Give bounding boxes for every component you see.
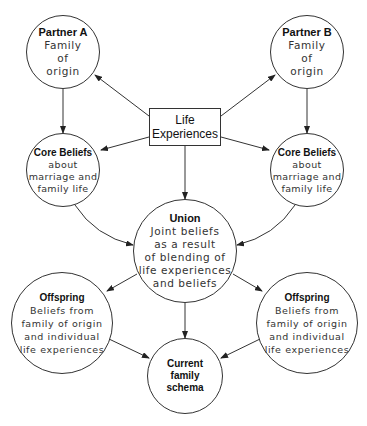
partner-b-title: Partner B (282, 26, 332, 39)
arrow-life-to-core-b (221, 137, 269, 150)
core-beliefs-b-title: Core Beliefs (278, 146, 336, 159)
current-schema-title: Current family schema (166, 358, 203, 394)
union-title: Union (169, 212, 200, 225)
arrow-offspring-a-to-schema (109, 339, 149, 358)
partner-b-node: Partner B Family of origin (270, 15, 344, 89)
arrow-union-to-offspring-b (233, 274, 262, 291)
core-beliefs-b-body: about marriage and family life (273, 159, 342, 195)
partner-a-title: Partner A (38, 26, 87, 39)
offspring-a-body: Beliefs from family of origin and indivi… (20, 304, 105, 356)
partner-a-body: Family of origin (44, 39, 81, 78)
arrow-life-to-partner-b (221, 75, 275, 116)
core-beliefs-a-body: about marriage and family life (29, 159, 98, 195)
union-body: Joint beliefs as a result of blending of… (139, 225, 232, 290)
offspring-b-node: Offspring Beliefs from family of origin … (256, 272, 358, 374)
core-beliefs-a-title: Core Beliefs (34, 146, 92, 159)
offspring-b-body: Beliefs from family of origin and indivi… (265, 304, 350, 356)
life-experiences-box: Life Experiences (149, 108, 221, 146)
union-node: Union Joint beliefs as a result of blend… (133, 199, 237, 303)
current-schema-node: Current family schema (147, 338, 223, 414)
arrow-core-a-to-union (75, 205, 133, 245)
partner-a-node: Partner A Family of origin (26, 15, 100, 89)
offspring-b-title: Offspring (285, 291, 330, 304)
partner-b-body: Family of origin (288, 39, 325, 78)
core-beliefs-b-node: Core Beliefs about marriage and family l… (270, 133, 344, 207)
offspring-a-node: Offspring Beliefs from family of origin … (11, 272, 113, 374)
core-beliefs-a-node: Core Beliefs about marriage and family l… (26, 133, 100, 207)
offspring-a-title: Offspring (40, 291, 85, 304)
arrow-offspring-b-to-schema (221, 339, 260, 358)
arrow-life-to-partner-a (95, 75, 149, 116)
arrow-union-to-offspring-a (107, 274, 137, 291)
arrow-life-to-core-a (101, 137, 149, 150)
arrow-core-b-to-union (237, 205, 295, 245)
life-experiences-label: Life Experiences (152, 113, 218, 141)
